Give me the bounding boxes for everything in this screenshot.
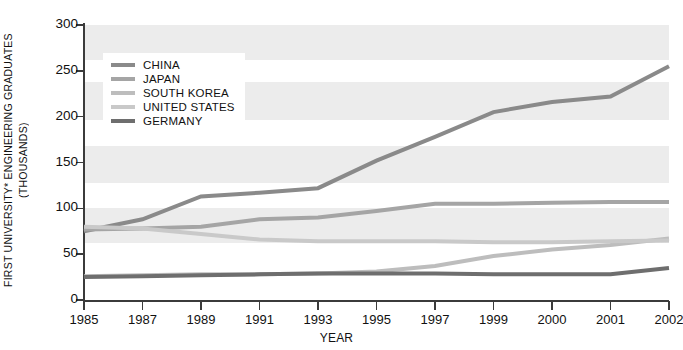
x-axis-tick (83, 301, 85, 310)
x-axis-tick (317, 301, 319, 310)
legend-item: CHINA (111, 58, 235, 72)
y-axis-tick-label: 0 (12, 291, 78, 306)
background-band (84, 146, 669, 183)
x-axis-tick-label: 1989 (187, 312, 216, 327)
x-axis-tick-label: 2000 (538, 312, 567, 327)
x-axis-tick (200, 301, 202, 310)
x-axis-tick-label: 1991 (245, 312, 274, 327)
legend-swatch-icon (111, 91, 135, 96)
y-axis-tick-label: 250 (12, 62, 78, 77)
legend: CHINAJAPANSOUTH KOREAUNITED STATESGERMAN… (103, 53, 245, 133)
y-axis-tick-label: 200 (12, 108, 78, 123)
legend-item-label: UNITED STATES (143, 100, 235, 114)
x-axis-tick (493, 301, 495, 310)
x-axis-tick (434, 301, 436, 310)
legend-item: SOUTH KOREA (111, 86, 235, 100)
x-axis-tick-label: 1985 (70, 312, 99, 327)
legend-swatch-icon (111, 77, 135, 82)
y-axis-tick-label: 50 (12, 245, 78, 260)
legend-swatch-icon (111, 119, 135, 124)
x-axis-tick (376, 301, 378, 310)
legend-item: JAPAN (111, 72, 235, 86)
x-axis-tick-label: 1999 (479, 312, 508, 327)
x-axis-tick-label: 1987 (128, 312, 157, 327)
x-axis-tick (259, 301, 261, 310)
y-axis-tick-labels: 050100150200250300 (6, 0, 78, 350)
x-axis-tick (142, 301, 144, 310)
background-band (84, 208, 669, 243)
legend-swatch-icon (111, 63, 135, 68)
x-axis-tick (668, 301, 670, 310)
legend-item: GERMANY (111, 114, 235, 128)
legend-item-label: SOUTH KOREA (143, 86, 229, 100)
x-axis-tick-label: 2002 (655, 312, 683, 327)
legend-item-label: GERMANY (143, 114, 203, 128)
x-axis-tick-label: 1997 (421, 312, 450, 327)
legend-item-label: CHINA (143, 58, 180, 72)
x-axis-tick-label: 1993 (304, 312, 333, 327)
legend-item-label: JAPAN (143, 72, 180, 86)
x-axis-tick-label: 2001 (596, 312, 625, 327)
y-axis-tick-label: 150 (12, 154, 78, 169)
x-axis-title: YEAR (0, 331, 673, 345)
y-axis-tick-label: 100 (12, 199, 78, 214)
legend-swatch-icon (111, 105, 135, 110)
y-axis-tick-label: 300 (12, 16, 78, 31)
x-axis-tick-label: 1995 (362, 312, 391, 327)
x-axis-tick (551, 301, 553, 310)
legend-item: UNITED STATES (111, 100, 235, 114)
x-axis-tick (610, 301, 612, 310)
